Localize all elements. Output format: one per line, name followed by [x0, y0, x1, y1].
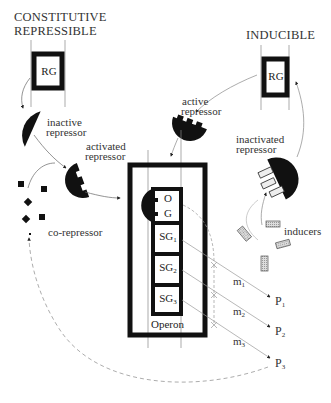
inactive-repressor-label-2: repressor: [46, 127, 86, 138]
m1-label: m1: [233, 276, 245, 291]
co-repressor-label: co-repressor: [48, 227, 102, 238]
heading-inducible: INDUCIBLE: [246, 28, 315, 42]
operon-title: Operon: [145, 318, 190, 330]
operator-label: O: [156, 192, 180, 204]
inactivated-repressor-shape: [258, 150, 306, 199]
p2-label: P2: [275, 326, 285, 341]
heading-repressible: REPRESSIBLE: [14, 24, 97, 38]
gene-label: G: [156, 207, 180, 219]
inactive-repressor-shape: [15, 111, 50, 147]
inducer-molecules: [237, 221, 290, 271]
p1-label: P1: [275, 296, 285, 311]
m3-label: m3: [233, 336, 245, 351]
sg3-label: SG3: [153, 292, 183, 306]
p3-label: P3: [275, 358, 285, 373]
activated-repressor-label-2: repressor: [85, 151, 125, 162]
inactivated-repressor-label-2: repressor: [236, 144, 276, 155]
active-repressor-shape: [167, 113, 208, 146]
sg1-label: SG1: [153, 230, 183, 244]
co-repressor-molecules: [18, 181, 47, 235]
activated-repressor-shape: [60, 163, 89, 203]
sg2-label: SG2: [153, 261, 183, 275]
heading-constitutive: CONSTITUTIVE: [14, 10, 107, 24]
left-rg-label: RG: [38, 65, 60, 77]
active-repressor-label-2: repressor: [181, 106, 221, 117]
m2-label: m2: [233, 306, 245, 321]
right-rg-label: RG: [265, 70, 287, 82]
inducers-label: inducers: [284, 226, 321, 237]
